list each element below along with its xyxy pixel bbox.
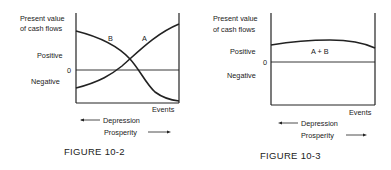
- arrow-left-icon: [80, 119, 84, 122]
- figure-caption: FIGURE 10-2: [64, 146, 125, 157]
- curve-a-label: A: [142, 34, 147, 43]
- positive-label: Positive: [37, 51, 63, 60]
- ylabel-line1: Present value: [213, 14, 258, 23]
- depression-label: Depression: [103, 116, 140, 125]
- zero-label: 0: [263, 58, 267, 67]
- figure-10-2: Present value of cash flows Positive 0 N…: [0, 0, 200, 170]
- ylabel-line2: of cash flows: [20, 24, 62, 33]
- figure-10-3: Present value of cash flows Positive 0 N…: [200, 0, 391, 170]
- negative-label: Negative: [31, 77, 60, 86]
- arrow-left-icon: [278, 122, 282, 125]
- curve-b: [76, 31, 179, 101]
- arrow-right-icon: [363, 134, 367, 137]
- curve-b-label: B: [108, 34, 113, 43]
- prosperity-label: Prosperity: [104, 128, 137, 137]
- depression-label: Depression: [301, 119, 338, 128]
- positive-label: Positive: [230, 47, 256, 56]
- ylabel-line1: Present value: [20, 14, 65, 23]
- events-label: Events: [152, 105, 174, 114]
- zero-label: 0: [67, 66, 71, 75]
- prosperity-label: Prosperity: [301, 131, 334, 140]
- ylabel-line2: of cash flows: [213, 25, 255, 34]
- arrow-right-icon: [167, 131, 171, 134]
- negative-label: Negative: [227, 71, 256, 80]
- curve-a-plus-b-label: A + B: [311, 47, 329, 56]
- events-label: Events: [349, 108, 371, 117]
- figure-caption: FIGURE 10-3: [260, 150, 321, 161]
